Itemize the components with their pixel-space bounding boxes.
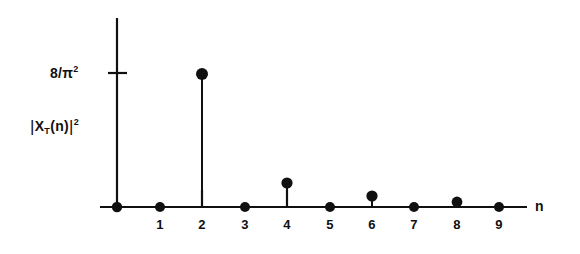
stem-marker-n1 bbox=[155, 202, 165, 212]
x-tick-label-7: 7 bbox=[404, 218, 424, 231]
x-tick-label-4: 4 bbox=[277, 218, 297, 231]
stem-n7 bbox=[409, 202, 419, 212]
y-caption-argument: (n) bbox=[50, 118, 69, 134]
stem-n3 bbox=[240, 202, 250, 212]
stem-marker-n4 bbox=[281, 177, 292, 188]
y-tick-numerator: 8/ bbox=[50, 65, 62, 81]
x-tick-label-5: 5 bbox=[320, 218, 340, 231]
stem-n9 bbox=[494, 202, 504, 212]
y-axis-tick-label-8-over-pi-squared: 8/π2 bbox=[50, 66, 79, 80]
x-tick-label-8: 8 bbox=[447, 218, 467, 231]
stem-marker-n7 bbox=[409, 202, 419, 212]
stem-marker-n5 bbox=[325, 202, 335, 212]
plot-canvas bbox=[0, 0, 580, 254]
pi-symbol: π bbox=[62, 65, 73, 81]
stem-n1 bbox=[155, 202, 165, 212]
stem-marker-n8 bbox=[452, 197, 463, 208]
y-tick-exponent: 2 bbox=[73, 64, 78, 74]
stem-n0 bbox=[112, 202, 122, 212]
x-tick-label-2: 2 bbox=[192, 218, 212, 231]
y-caption-exponent: 2 bbox=[74, 117, 79, 127]
axes-group bbox=[100, 18, 527, 207]
stem-n6 bbox=[366, 190, 377, 207]
y-caption-base: X bbox=[35, 118, 45, 134]
x-tick-label-1: 1 bbox=[150, 218, 170, 231]
x-tick-label-6: 6 bbox=[362, 218, 382, 231]
stem-marker-n0 bbox=[112, 202, 122, 212]
stem-n2 bbox=[196, 68, 208, 207]
stem-marker-n9 bbox=[494, 202, 504, 212]
stem-marker-n6 bbox=[366, 190, 377, 201]
stem-n4 bbox=[281, 177, 292, 207]
stem-n8 bbox=[452, 197, 463, 208]
stem-plot-figure: 8/π2 |XT(n)|2 1 2 3 4 5 6 7 8 9 n bbox=[0, 0, 580, 254]
stem-marker-n2 bbox=[196, 68, 208, 80]
x-tick-label-3: 3 bbox=[235, 218, 255, 231]
x-tick-label-9: 9 bbox=[489, 218, 509, 231]
y-axis-caption: |XT(n)|2 bbox=[30, 118, 79, 135]
stem-n5 bbox=[325, 202, 335, 212]
stems-group bbox=[112, 68, 504, 212]
stem-marker-n3 bbox=[240, 202, 250, 212]
x-axis-name-label: n bbox=[535, 199, 544, 213]
